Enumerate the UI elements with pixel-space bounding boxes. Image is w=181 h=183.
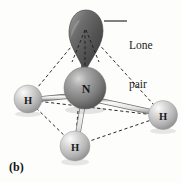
lone-pair-callout-line2: pair bbox=[129, 78, 153, 91]
panel-letter: (b) bbox=[9, 160, 24, 175]
atom-nitrogen: N bbox=[64, 67, 106, 114]
molecule-diagram: N H H H bbox=[0, 0, 181, 183]
hydrogen-bottom-label: H bbox=[71, 142, 79, 153]
atom-hydrogen-right: H bbox=[149, 101, 178, 135]
nitrogen-label: N bbox=[82, 82, 91, 96]
lone-pair-callout: Lone pair bbox=[129, 13, 153, 117]
lone-pair-lobe-shape bbox=[69, 10, 103, 72]
lone-pair-lobe bbox=[69, 10, 103, 72]
lone-pair-callout-line1: Lone bbox=[129, 39, 153, 52]
molecular-geometry-figure: N H H H Lone pair (b) bbox=[0, 0, 181, 183]
hydrogen-right-label: H bbox=[159, 111, 167, 122]
atom-hydrogen-left: H bbox=[14, 85, 42, 117]
atom-hydrogen-bottom: H bbox=[60, 131, 90, 166]
hydrogen-left-label: H bbox=[24, 95, 32, 106]
